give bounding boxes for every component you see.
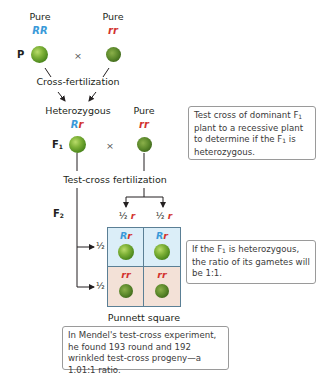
connector-lines — [0, 0, 323, 381]
cell-genotype: Rr — [108, 230, 144, 241]
wrinkled-pea-icon — [155, 284, 169, 298]
f1-right-genotype: rr — [124, 119, 164, 130]
p-left-purity: Pure — [20, 11, 60, 22]
process-test-cross-fertilization: Test-cross fertilization — [55, 174, 175, 185]
column-gamete-1: ½ r — [114, 211, 140, 221]
punnett-square: Rr Rr rr rr — [107, 227, 181, 307]
recessive-allele: r — [78, 119, 83, 130]
column-gamete-2: ½ r — [151, 211, 177, 221]
generation-label-f2: F2 — [53, 208, 64, 219]
process-cross-fertilization: Cross-fertilization — [30, 76, 126, 87]
p-right-purity: Pure — [93, 11, 133, 22]
round-pea-icon — [154, 244, 170, 260]
punnett-caption: Punnett square — [100, 312, 188, 323]
dominant-allele: RR — [32, 25, 47, 36]
generation-label-f1: F1 — [52, 139, 63, 150]
p-right-genotype: rr — [93, 25, 133, 36]
recessive-allele: rr — [108, 25, 118, 36]
wrinkled-pea-icon — [137, 137, 152, 152]
cell-genotype: Rr — [144, 230, 180, 241]
round-pea-icon — [69, 136, 86, 153]
note-test-cross: Test cross of dominant F1 plant to a rec… — [188, 106, 316, 160]
cross-symbol: × — [104, 140, 116, 151]
cross-symbol: × — [72, 50, 84, 61]
f1-left-purity: Heterozygous — [40, 105, 116, 116]
generation-label-p: P — [17, 49, 24, 60]
punnett-cell: Rr — [144, 228, 180, 267]
f1-right-purity: Pure — [124, 105, 164, 116]
cell-genotype: rr — [144, 269, 180, 280]
f1-left-genotype: Rr — [57, 119, 97, 130]
punnett-cell: rr — [108, 267, 144, 306]
wrinkled-pea-icon — [119, 284, 133, 298]
recessive-allele: rr — [139, 119, 149, 130]
round-pea-icon — [31, 46, 48, 63]
round-pea-icon — [118, 244, 134, 260]
note-mendel-result: In Mendel's test-cross experiment, he fo… — [62, 326, 229, 370]
wrinkled-pea-icon — [106, 47, 121, 62]
punnett-cell: rr — [144, 267, 180, 306]
cell-genotype: rr — [108, 269, 144, 280]
note-gamete-ratio: If the F1 is heterozygous, the ratio of … — [186, 240, 316, 284]
punnett-cell: Rr — [108, 228, 144, 267]
p-left-genotype: RR — [20, 25, 60, 36]
